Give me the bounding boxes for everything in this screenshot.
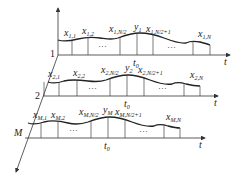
row-index-label: 1 xyxy=(50,48,55,59)
signal-curve-row-2 xyxy=(48,75,200,86)
peak-label: yM xyxy=(102,104,113,116)
sample-label: x2,1 xyxy=(47,68,60,80)
sample-label: x2,2 xyxy=(72,67,85,79)
sample-label: xM,2 xyxy=(50,109,65,121)
signal-curve-row-1 xyxy=(58,33,210,45)
ellipsis: ··· xyxy=(69,125,78,135)
sample-label: x1,N/2+1 xyxy=(145,23,171,35)
row-m: ··· ··· M xM,1 xM,2 xM,N/2 yM xM,N/2+1 x… xyxy=(13,104,205,152)
row-index-label: 2 xyxy=(35,90,40,101)
time-axis-label: t xyxy=(214,97,217,108)
ellipsis: ··· xyxy=(158,83,167,93)
time-axis-label: t xyxy=(224,56,227,67)
row-2: ··· ··· 2 x2,1 x2,2 x2,N/2 y2 x2,N/2+1 x… xyxy=(35,62,218,110)
sample-label: xM,1 xyxy=(32,109,47,121)
sampling-diagram: ··· ··· 1 x1,1 x1,2 x1,N/2 y1 x1,N/2+1 x… xyxy=(0,0,236,182)
sample-label: xM,N/2 xyxy=(78,106,99,118)
ellipsis: ··· xyxy=(139,126,148,136)
peak-label: y2 xyxy=(124,62,132,74)
ellipsis: ··· xyxy=(98,41,107,51)
sample-label: xM,N xyxy=(165,111,182,123)
center-time-label: t0 xyxy=(124,98,130,110)
sample-label: x1,2 xyxy=(81,25,94,37)
peak-label: y1 xyxy=(133,21,141,33)
sample-label: x2,N/2 xyxy=(100,64,119,76)
sample-label: x1,N/2 xyxy=(108,23,127,35)
center-time-label: t0 xyxy=(104,140,110,152)
time-axis-label: t xyxy=(199,139,202,150)
sample-label: x1,1 xyxy=(63,27,76,39)
sample-label: x1,N xyxy=(197,28,212,40)
row-index-label: M xyxy=(13,127,23,138)
row-1: ··· ··· 1 x1,1 x1,2 x1,N/2 y1 x1,N/2+1 x… xyxy=(50,21,230,69)
ellipsis: ··· xyxy=(167,42,176,52)
sample-label: x2,N xyxy=(189,69,204,81)
sample-label: x2,N/2+1 xyxy=(137,64,163,76)
ellipsis: ··· xyxy=(88,83,97,93)
